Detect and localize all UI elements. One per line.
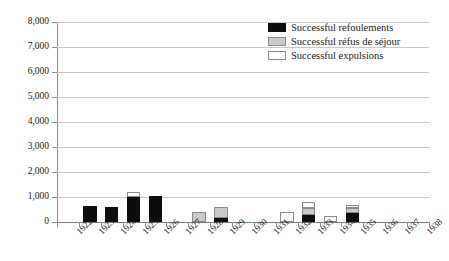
- y-axis-tick: [52, 47, 57, 48]
- x-axis-tick-label: 1936: [381, 230, 387, 236]
- legend-swatch-black: [268, 23, 286, 32]
- y-axis-tick: [52, 97, 57, 98]
- x-axis-tick-label: 1922: [75, 230, 81, 236]
- legend-label: Successful refoulements: [291, 22, 393, 33]
- x-axis-tick-label: 1931: [272, 230, 278, 236]
- x-axis-tick-label: 1938: [425, 230, 431, 236]
- y-axis-tick: [52, 222, 57, 223]
- chart-legend: Successful refoulementsSuccessful réfus …: [268, 21, 400, 61]
- x-axis-tick-label: 1924: [119, 230, 125, 236]
- x-axis-tick-label: 1935: [359, 230, 365, 236]
- y-axis-tick-label: 5,000: [28, 92, 49, 102]
- x-axis-tick-label: 1926: [162, 230, 168, 236]
- legend-swatch-white: [268, 51, 286, 60]
- y-axis-tick: [52, 172, 57, 173]
- legend-label: Successful expulsions: [291, 50, 383, 61]
- legend-swatch-gray: [268, 37, 286, 46]
- y-axis-tick-label: 2,000: [28, 167, 49, 177]
- x-axis-tick-label: 1933: [316, 230, 322, 236]
- y-axis-tick: [52, 72, 57, 73]
- x-axis-tick-label: 1927: [184, 230, 190, 236]
- x-axis-tick-label: 1934: [338, 230, 344, 236]
- legend-item: Successful refoulements: [268, 21, 400, 33]
- x-axis-tick-label: 1928: [206, 230, 212, 236]
- legend-item: Successful expulsions: [268, 49, 400, 61]
- y-axis-tick-label: 4,000: [28, 117, 49, 127]
- x-axis-tick-label: 1932: [294, 230, 300, 236]
- y-axis-tick-label: 6,000: [28, 67, 49, 77]
- y-axis-tick: [52, 197, 57, 198]
- y-axis-tick-label: 3,000: [28, 142, 49, 152]
- bar-chart: 8,0007,0006,0005,0004,0003,0002,0001,000…: [0, 0, 449, 261]
- y-axis-tick-label: 8,000: [28, 17, 49, 27]
- x-axis-tick-label: 1929: [228, 230, 234, 236]
- y-axis-tick-label: 0: [44, 217, 49, 227]
- x-axis-tick: [57, 222, 58, 227]
- y-axis-labels: 8,0007,0006,0005,0004,0003,0002,0001,000…: [0, 22, 49, 222]
- x-axis-tick-label: 1923: [97, 230, 103, 236]
- y-axis-tick-label: 7,000: [28, 42, 49, 52]
- y-axis-tick: [52, 147, 57, 148]
- x-axis-tick-label: 1925: [141, 230, 147, 236]
- y-axis-tick-label: 1,000: [28, 192, 49, 202]
- y-axis-tick: [52, 122, 57, 123]
- legend-label: Successful réfus de séjour: [291, 36, 400, 47]
- x-axis-tick-label: 1937: [403, 230, 409, 236]
- y-axis-tick: [52, 22, 57, 23]
- x-axis-tick-label: 1930: [250, 230, 256, 236]
- legend-item: Successful réfus de séjour: [268, 35, 400, 47]
